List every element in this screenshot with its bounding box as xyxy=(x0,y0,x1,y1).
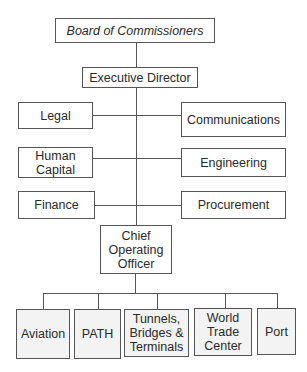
connector-wtc xyxy=(225,293,226,308)
connector-tunnels xyxy=(157,293,158,309)
node-communications: Communications xyxy=(181,102,286,137)
connector-finance-procurement xyxy=(95,205,181,206)
connector-path xyxy=(98,293,99,309)
connector-legal-communications xyxy=(93,115,181,116)
node-tunnels-bridges-terminals: Tunnels, Bridges & Terminals xyxy=(124,309,189,357)
node-finance: Finance xyxy=(18,191,95,219)
node-human-capital: Human Capital xyxy=(18,147,93,178)
connector-board-exec xyxy=(136,43,137,67)
node-engineering: Engineering xyxy=(181,148,286,177)
node-board-of-commissioners: Board of Commissioners xyxy=(55,18,215,43)
connector-coo-bus xyxy=(135,274,136,293)
connector-port xyxy=(277,293,278,308)
node-chief-operating-officer: Chief Operating Officer xyxy=(100,225,172,274)
connector-units-bus xyxy=(43,293,278,294)
node-legal: Legal xyxy=(18,102,93,129)
node-executive-director: Executive Director xyxy=(82,67,198,88)
node-port: Port xyxy=(257,308,296,355)
connector-aviation xyxy=(43,293,44,309)
node-world-trade-center: World Trade Center xyxy=(194,308,252,356)
connector-humancapital-engineering xyxy=(93,158,181,159)
node-path: PATH xyxy=(74,309,121,359)
node-aviation: Aviation xyxy=(16,309,70,359)
node-procurement: Procurement xyxy=(181,191,286,219)
